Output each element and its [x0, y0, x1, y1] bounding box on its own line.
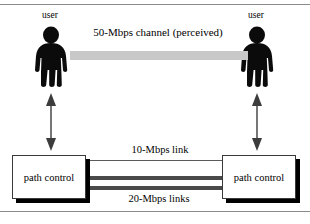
- path-control-box-right: path control: [222, 155, 296, 199]
- top-divider-rule: [0, 4, 310, 5]
- double-headed-arrow-icon: [249, 93, 265, 151]
- path-control-left-shadow: [16, 199, 90, 203]
- path-control-left-label: path control: [24, 172, 74, 183]
- path-control-right-shadow: [226, 199, 300, 203]
- path-control-right-shadow: [296, 159, 300, 203]
- user-label-right: user: [232, 10, 280, 20]
- path-control-right-label: path control: [234, 172, 284, 183]
- link-line-20mbps-a: [86, 176, 222, 180]
- double-headed-arrow-icon: [43, 93, 59, 151]
- link-line-10mbps: [86, 160, 222, 161]
- link-line-20mbps-b: [86, 186, 222, 190]
- user-label-left: user: [26, 10, 74, 20]
- link-label-10mbps: 10-Mbps link: [110, 144, 210, 155]
- bottom-divider-rule: [0, 211, 310, 212]
- path-control-box-left: path control: [12, 155, 86, 199]
- perceived-channel-bar: [70, 51, 248, 60]
- network-diagram-figure: user user 50-Mbps channel (perceived): [0, 0, 310, 224]
- path-control-left-shadow: [86, 159, 90, 203]
- person-silhouette-icon: [30, 26, 72, 88]
- link-label-20mbps: 20-Mbps links: [104, 193, 214, 204]
- channel-label: 50-Mbps channel (perceived): [68, 26, 248, 38]
